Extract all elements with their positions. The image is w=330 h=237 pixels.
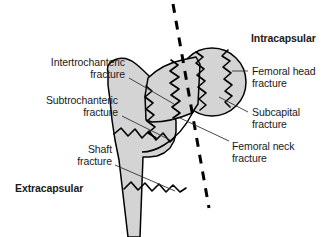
fracture-label-shaft-line1: Shaft: [88, 143, 112, 155]
fracture-label-subcapital-line2: fracture: [252, 118, 287, 130]
fracture-label-subcapital-line1: Subcapital: [252, 106, 300, 118]
fracture-label-intertrochanteric-line1: Intertrochanteric: [51, 56, 125, 68]
leader-line-femoral-neck: [180, 118, 229, 141]
fracture-label-subtrochanteric-line1: Subtrochanteric: [46, 94, 118, 106]
region-label-intracapsular: Intracapsular: [251, 32, 316, 44]
fracture-label-femoral-neck-line1: Femoral neck: [232, 140, 294, 152]
fracture-label-intertrochanteric-line2: fracture: [90, 68, 125, 80]
fracture-label-femoral-head-line2: fracture: [252, 77, 287, 89]
fracture-label-femoral-head-line1: Femoral head: [252, 65, 316, 77]
fracture-label-subtrochanteric-line2: fracture: [83, 106, 118, 118]
region-label-extracapsular: Extracapsular: [15, 182, 83, 194]
fracture-label-femoral-neck-line2: fracture: [232, 152, 267, 164]
hip-fracture-diagram: Intracapsular Extracapsular Intertrochan…: [0, 0, 330, 237]
fracture-label-shaft-line2: fracture: [77, 155, 112, 167]
